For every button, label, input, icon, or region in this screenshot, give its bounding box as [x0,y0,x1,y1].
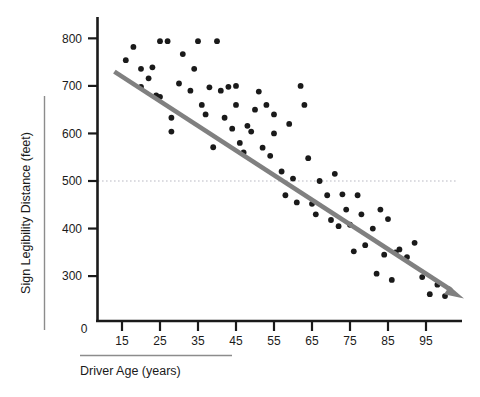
scatter-point [180,51,186,57]
scatter-point [271,131,277,137]
y-tick-label: 500 [62,174,82,188]
scatter-point [203,112,209,118]
scatter-point [245,123,251,129]
scatter-point [385,216,391,222]
scatter-point [138,66,144,72]
scatter-point [305,155,311,161]
scatter-point [355,192,361,198]
scatter-point [195,38,201,44]
x-tick-label: 55 [267,334,281,348]
scatter-point [324,192,330,198]
scatter-point [370,226,376,232]
x-tick-label: 75 [343,334,357,348]
scatter-point [233,102,239,108]
x-tick-labels: 152535455565758595 [115,334,433,348]
chart-figure: 300400500600700800 152535455565758595 0 … [0,0,480,397]
scatter-point [317,178,323,184]
scatter-point [298,83,304,89]
x-tick-label: 65 [305,334,319,348]
x-tick-label: 95 [419,334,433,348]
axis-origin-label: 0 [81,322,88,336]
scatter-point [389,277,395,283]
scatter-point [233,83,239,89]
scatter-point [374,271,380,277]
scatter-point [286,121,292,127]
y-tick-label: 600 [62,127,82,141]
x-tick-label: 85 [381,334,395,348]
scatter-point [237,140,243,146]
scatter-point [271,112,277,118]
scatter-point [427,291,433,297]
scatter-point [313,211,319,217]
scatter-point [279,169,285,175]
scatter-point [412,240,418,246]
scatter-point [343,207,349,213]
scatter-point [328,217,334,223]
scatter-point [214,38,220,44]
scatter-point [260,145,266,151]
y-axis-title: Sign Legibility Distance (feet) [19,132,33,294]
scatter-point [290,176,296,182]
scatter-point [157,38,163,44]
y-tick-label: 400 [62,222,82,236]
scatter-point [169,129,175,135]
scatter-point [188,88,194,94]
scatter-point [294,200,300,206]
scatter-point [229,126,235,132]
scatter-point [150,64,156,70]
scatter-point [176,81,182,87]
x-tick-label: 45 [229,334,243,348]
scatter-point [340,191,346,197]
y-tick-label: 700 [62,79,82,93]
scatter-point [256,89,262,95]
scatter-point [248,129,254,135]
scatter-plot-svg: 300400500600700800 152535455565758595 0 … [0,0,480,397]
scatter-point [218,88,224,94]
scatter-point [165,38,171,44]
scatter-point [169,115,175,121]
scatter-point [397,247,403,253]
scatter-point [381,252,387,258]
scatter-point [226,84,232,90]
scatter-point [264,102,270,108]
y-tick-label: 300 [62,269,82,283]
scatter-point [199,102,205,108]
scatter-point [362,242,368,248]
scatter-point [131,44,137,50]
scatter-point [351,248,357,254]
scatter-point [146,75,152,81]
scatter-point [336,223,342,229]
scatter-point [283,192,289,198]
x-tick-label: 35 [191,334,205,348]
scatter-point [222,115,228,121]
x-tick-label: 25 [153,334,167,348]
scatter-point [123,57,129,63]
scatter-point [210,144,216,150]
scatter-point [378,207,384,213]
x-tick-label: 15 [115,334,129,348]
scatter-point [267,153,273,159]
scatter-point [359,211,365,217]
scatter-point [302,102,308,108]
scatter-point [207,84,213,90]
scatter-point [252,107,258,113]
y-tick-label: 800 [62,32,82,46]
scatter-point [191,66,197,72]
x-axis-title: Driver Age (years) [80,364,181,378]
scatter-point [332,171,338,177]
